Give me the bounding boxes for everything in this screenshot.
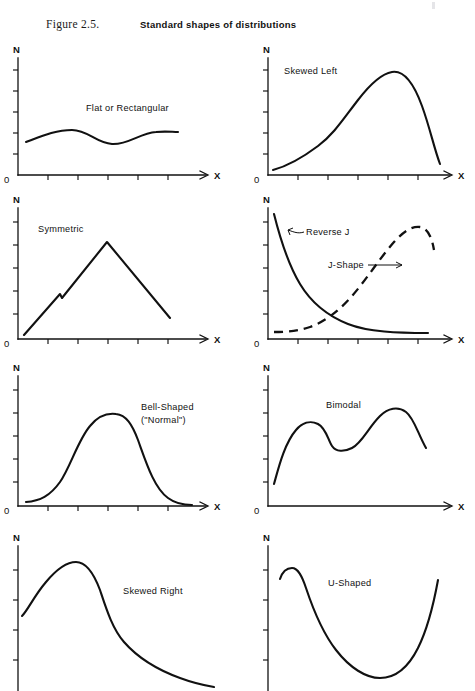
y-axis-label: N (13, 44, 20, 55)
curve-symmetric (24, 242, 170, 335)
panel-symmetric: N X 0 Symmetric (0, 202, 238, 362)
y-axis-label: N (13, 194, 20, 205)
axes-flat-or-rectangular (13, 58, 208, 180)
axes-bell-shaped (13, 376, 208, 511)
origin-label: 0 (254, 505, 259, 516)
y-axis-label: N (263, 532, 270, 543)
curve-skewed-left (273, 72, 440, 170)
figure-number: Figure 2.5. (46, 18, 99, 30)
panel-label-bimodal: Bimodal (326, 400, 361, 410)
panel-u-shaped: N U-Shaped (240, 534, 475, 691)
x-axis-label: X (458, 170, 465, 181)
panel-skewed-left: N X 0 Skewed Left (240, 44, 475, 194)
y-axis-label: N (263, 362, 270, 373)
curve-skewed-right (22, 562, 214, 687)
origin-label: 0 (254, 174, 259, 185)
panel-sublabel-bell-shaped: ("Normal") (141, 415, 186, 425)
y-axis-label: N (13, 362, 20, 373)
panel-label-skewed-left: Skewed Left (284, 66, 338, 76)
panel-bimodal: N X 0 Bimodal (240, 366, 475, 526)
figure-header: Figure 2.5. Standard shapes of distribut… (0, 18, 475, 38)
leader-reverse-j (288, 228, 304, 235)
axes-skewed-right (13, 546, 18, 691)
panel-label-bell-shaped: Bell-Shaped (141, 402, 194, 412)
x-axis-label: X (214, 334, 221, 345)
panel-label-u-shaped: U-Shaped (328, 578, 371, 588)
curve-bimodal (274, 409, 426, 484)
x-axis-label: X (214, 170, 221, 181)
figure-caption: Standard shapes of distributions (140, 19, 296, 30)
panel-flat-or-rectangular: N X 0 Flat or Rectangular (0, 44, 238, 194)
origin-label: 0 (254, 338, 259, 349)
panel-skewed-right: N Skewed Right (0, 534, 238, 691)
figure-page: Figure 2.5. Standard shapes of distribut… (0, 0, 475, 691)
x-axis-label: X (458, 501, 465, 512)
panel-label-reverse-j: Reverse J (306, 227, 350, 237)
panel-label-j-shape: J-Shape (328, 260, 364, 270)
scan-artifact (432, 2, 435, 9)
panel-label-skewed-right: Skewed Right (123, 586, 183, 596)
curve-bell-shaped (26, 414, 192, 505)
origin-label: 0 (4, 505, 9, 516)
origin-label: 0 (4, 174, 9, 185)
y-axis-label: N (263, 44, 270, 55)
x-axis-label: X (214, 501, 221, 512)
panel-label-symmetric: Symmetric (38, 224, 84, 234)
y-axis-label: N (263, 194, 270, 205)
curve-flat-or-rectangular (26, 130, 178, 144)
axes-u-shaped (263, 546, 268, 691)
panel-bell-shaped: N X 0 Bell-Shaped ("Normal") (0, 366, 238, 526)
panel-label-flat-or-rectangular: Flat or Rectangular (86, 103, 169, 113)
panel-reverse-j-and-j-shape: N X 0 Reverse J J-Shape (240, 202, 475, 362)
y-axis-label: N (13, 532, 20, 543)
x-axis-label: X (458, 334, 465, 345)
origin-label: 0 (4, 338, 9, 349)
